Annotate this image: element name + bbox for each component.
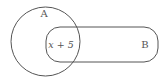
set-a-label: A — [39, 8, 48, 19]
intersection-label: x + 5 — [48, 39, 73, 50]
venn-diagram: A x + 5 B — [0, 0, 166, 84]
set-b-label: B — [141, 39, 148, 50]
venn-svg: A x + 5 B — [0, 0, 166, 84]
